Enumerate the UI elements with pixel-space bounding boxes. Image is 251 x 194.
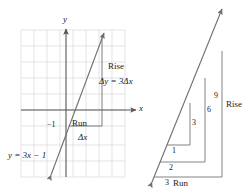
- graph-line: [51, 33, 104, 175]
- run-value-1: 1: [172, 147, 176, 155]
- rise-value-1: 3: [192, 119, 196, 127]
- run-value-3: 3: [165, 179, 169, 187]
- y-axis-label: y: [63, 15, 67, 24]
- run-label-right: Run: [173, 179, 188, 188]
- slope-figure: y x −1 y = 3x − 1 Run Δx Rise Δy = 3Δx R…: [0, 0, 251, 194]
- rise-formula-label: Δy = 3Δx: [99, 77, 133, 86]
- nested-triangles: [154, 51, 222, 177]
- similar-triangle-hypotenuse: [152, 9, 222, 182]
- run-symbol-label: Δx: [78, 133, 87, 142]
- x-axis-label: x: [139, 104, 143, 113]
- run-label: Run: [72, 119, 87, 128]
- rise-label-right: Rise: [226, 100, 242, 109]
- run-value-2: 2: [169, 164, 173, 172]
- rise-label-left: Rise: [108, 62, 124, 71]
- equation-label: y = 3x − 1: [8, 151, 46, 160]
- rise-value-3: 9: [214, 92, 218, 100]
- y-intercept-label: −1: [47, 121, 56, 129]
- rise-value-2: 6: [207, 106, 211, 114]
